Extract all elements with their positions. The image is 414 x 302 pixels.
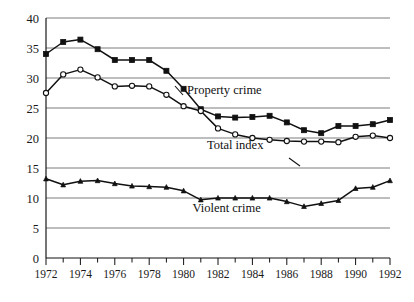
data-point-marker — [387, 135, 392, 140]
y-axis-tick-label: 30 — [27, 72, 40, 86]
data-point-marker — [388, 118, 393, 123]
chart-canvas: 0510152025303540197219741976197819801982… — [0, 0, 414, 302]
data-point-marker — [370, 133, 375, 138]
data-point-marker — [95, 75, 100, 80]
series-annotation-violent-crime: Violent crime — [192, 201, 261, 215]
data-point-marker — [353, 124, 358, 129]
y-axis-tick-label: 25 — [27, 102, 40, 116]
data-point-marker — [78, 37, 83, 42]
data-point-marker — [112, 58, 117, 63]
data-point-marker — [181, 86, 186, 91]
x-axis-tick-label: 1992 — [379, 268, 402, 280]
data-point-marker — [233, 132, 238, 137]
data-point-marker — [164, 92, 169, 97]
data-point-marker — [130, 58, 135, 63]
data-point-marker — [388, 178, 393, 183]
data-point-marker — [44, 176, 49, 181]
y-axis-tick-label: 40 — [27, 12, 40, 26]
data-point-marker — [267, 113, 272, 118]
data-point-marker — [78, 67, 83, 72]
x-axis-tick-label: 1986 — [275, 268, 298, 280]
x-axis-tick-label: 1982 — [207, 268, 230, 280]
data-point-marker — [284, 138, 289, 143]
y-axis-tick-label: 0 — [33, 252, 39, 266]
crime-rate-line-chart: 0510152025303540197219741976197819801982… — [0, 0, 414, 302]
data-point-marker — [215, 126, 220, 131]
data-point-marker — [370, 122, 375, 127]
y-axis-tick-label: 20 — [27, 132, 40, 146]
data-point-marker — [319, 131, 324, 136]
x-axis-tick-label: 1974 — [69, 268, 92, 280]
x-axis-tick-label: 1976 — [103, 268, 126, 280]
data-point-marker — [284, 120, 289, 125]
y-axis-tick-label: 35 — [27, 42, 40, 56]
data-point-marker — [319, 139, 324, 144]
x-axis-tick-label: 1990 — [344, 268, 367, 280]
y-axis-tick-label: 15 — [27, 162, 40, 176]
data-point-marker — [250, 115, 255, 120]
data-point-marker — [302, 128, 307, 133]
annotation-leader-total-index — [289, 158, 300, 166]
data-point-marker — [129, 83, 134, 88]
series-annotation-total-index: Total index — [207, 138, 264, 152]
data-point-marker — [336, 140, 341, 145]
y-axis-tick-label: 5 — [33, 222, 39, 236]
x-axis-tick-label: 1988 — [310, 268, 333, 280]
series-annotation-property-crime: Property crime — [187, 83, 262, 97]
data-point-marker — [164, 68, 169, 73]
data-point-marker — [301, 139, 306, 144]
x-axis-tick-label: 1980 — [172, 268, 195, 280]
data-point-marker — [353, 134, 358, 139]
x-axis-tick-label: 1972 — [35, 268, 58, 280]
data-point-marker — [95, 47, 100, 52]
data-point-marker — [44, 52, 49, 57]
data-point-marker — [233, 115, 238, 120]
data-point-marker — [147, 84, 152, 89]
data-point-marker — [61, 72, 66, 77]
data-point-marker — [267, 137, 272, 142]
x-axis-tick-label: 1978 — [138, 268, 161, 280]
data-point-marker — [43, 90, 48, 95]
data-point-marker — [336, 124, 341, 129]
data-point-marker — [181, 104, 186, 109]
data-point-marker — [147, 58, 152, 63]
data-point-marker — [61, 40, 66, 45]
x-axis-tick-label: 1984 — [241, 268, 264, 280]
data-point-marker — [216, 114, 221, 119]
y-axis-tick-label: 10 — [27, 192, 40, 206]
data-point-marker — [112, 84, 117, 89]
data-point-marker — [198, 108, 203, 113]
